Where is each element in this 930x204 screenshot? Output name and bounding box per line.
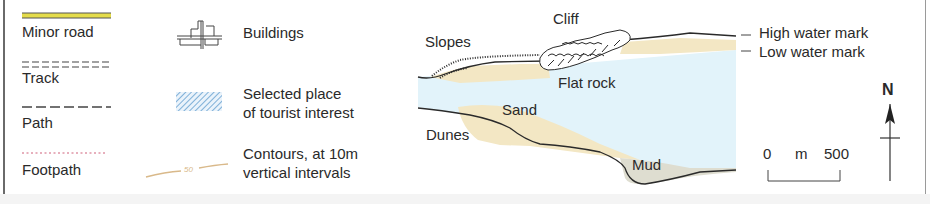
legend-label-contours-line1: Contours, at 10m bbox=[243, 144, 358, 163]
label-flat-rock: Flat rock bbox=[558, 73, 616, 92]
legend-label-buildings: Buildings bbox=[243, 23, 304, 42]
minor-road-symbol bbox=[22, 13, 111, 18]
scale-start: 0 bbox=[763, 144, 771, 163]
label-sand: Sand bbox=[502, 100, 537, 119]
track-symbol bbox=[22, 62, 111, 67]
north-arrow-icon bbox=[880, 104, 900, 181]
legend-label-path: Path bbox=[22, 113, 53, 132]
label-high-water-mark: High water mark bbox=[759, 23, 868, 42]
label-cliff: Cliff bbox=[553, 9, 579, 28]
label-dunes: Dunes bbox=[426, 125, 469, 144]
scale-unit: m bbox=[795, 144, 808, 163]
legend-label-tourist-line1: Selected place bbox=[243, 84, 341, 103]
legend-label-minor-road: Minor road bbox=[22, 22, 94, 41]
legend-label-contours-line2: vertical intervals bbox=[243, 163, 351, 182]
buildings-icon bbox=[177, 21, 222, 49]
contour-symbol: 50 bbox=[146, 164, 228, 177]
scale-bar bbox=[768, 170, 840, 181]
scale-end: 500 bbox=[824, 144, 849, 163]
legend-label-footpath: Footpath bbox=[22, 160, 81, 179]
north-label: N bbox=[882, 80, 894, 99]
label-mud: Mud bbox=[632, 155, 661, 174]
label-slopes: Slopes bbox=[425, 32, 471, 51]
label-low-water-mark: Low water mark bbox=[759, 42, 865, 61]
tourist-interest-symbol bbox=[176, 92, 222, 111]
coast-diagram bbox=[418, 30, 751, 184]
svg-text:50: 50 bbox=[184, 165, 193, 174]
legend-label-tourist-line2: of tourist interest bbox=[243, 103, 354, 122]
legend-label-track: Track bbox=[22, 68, 59, 87]
